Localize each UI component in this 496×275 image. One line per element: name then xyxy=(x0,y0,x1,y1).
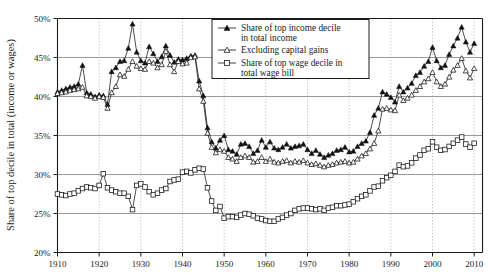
y-tick-label: 35% xyxy=(34,131,51,141)
chart-figure: 20%25%30%35%40%45%50% 191019201930194019… xyxy=(0,0,496,275)
x-tick-label: 1930 xyxy=(132,259,151,269)
y-axis-label: Share of top decile in total (income or … xyxy=(5,39,17,231)
data-point-marker xyxy=(164,186,169,191)
data-point-marker xyxy=(205,185,210,190)
data-point-marker xyxy=(393,169,398,174)
y-tick-label: 30% xyxy=(34,170,51,180)
x-tick-label: 1970 xyxy=(299,259,318,269)
y-tick-label: 45% xyxy=(34,53,51,63)
x-tick-label: 1950 xyxy=(215,259,234,269)
x-tick-label: 1920 xyxy=(90,259,109,269)
data-point-marker xyxy=(201,167,206,172)
legend-label-line1: Excluding capital gains xyxy=(241,45,329,55)
data-point-marker xyxy=(409,161,414,166)
data-point-marker xyxy=(101,171,106,176)
data-point-marker xyxy=(472,141,477,146)
x-tick-label: 1910 xyxy=(49,259,68,269)
data-point-marker xyxy=(426,146,431,151)
data-point-marker xyxy=(224,60,229,65)
x-tick-label: 1940 xyxy=(174,259,193,269)
y-tick-label: 50% xyxy=(34,14,51,24)
data-point-marker xyxy=(418,153,423,158)
legend-label-line1: Share of top income decile xyxy=(241,23,341,33)
legend-label-line2: in total income xyxy=(241,33,297,43)
data-point-marker xyxy=(130,207,135,212)
legend-label-line2: total wage bill xyxy=(241,68,295,78)
data-point-marker xyxy=(376,184,381,189)
y-tick-label: 25% xyxy=(34,209,51,219)
data-point-marker xyxy=(218,204,223,209)
x-tick-label: 1960 xyxy=(257,259,276,269)
y-tick-label: 20% xyxy=(34,248,51,258)
chart-legend[interactable]: Share of top income decilein total incom… xyxy=(212,20,369,79)
data-point-marker xyxy=(176,177,181,182)
x-tick-label: 2010 xyxy=(465,259,484,269)
x-tick-label: 1980 xyxy=(340,259,359,269)
data-point-marker xyxy=(97,183,102,188)
data-point-marker xyxy=(126,194,131,199)
legend-label-line1: Share of top wage decile in xyxy=(241,58,343,68)
y-tick-label: 40% xyxy=(34,92,51,102)
data-point-marker xyxy=(143,185,148,190)
income-inequality-line-chart: 20%25%30%35%40%45%50% 191019201930194019… xyxy=(0,0,496,275)
x-tick-label: 1990 xyxy=(382,259,401,269)
data-point-marker xyxy=(209,199,214,204)
data-point-marker xyxy=(430,139,435,144)
data-point-marker xyxy=(459,135,464,140)
x-tick-label: 2000 xyxy=(424,259,443,269)
